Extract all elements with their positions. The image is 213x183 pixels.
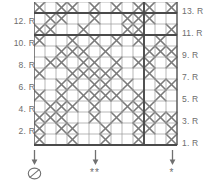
cell-symbol-cable-cross <box>133 134 144 145</box>
cell-symbol-cable-cross <box>56 46 67 57</box>
cell-symbol-cable-cross <box>56 79 67 90</box>
cell-symbol-cable-cross <box>100 123 111 134</box>
cell-symbol-cable-cross <box>89 57 100 68</box>
cell-symbol-cable-cross <box>111 2 122 13</box>
cell-symbol-cable-cross <box>56 13 67 24</box>
pattern-grid-svg <box>34 2 178 148</box>
cell-symbol-cable-cross <box>144 68 155 79</box>
cell-symbol-cable-cross <box>133 2 144 13</box>
cell-symbol-cable-cross <box>166 46 177 57</box>
cell-symbol-cable-cross <box>34 2 45 13</box>
down-arrow-icon <box>80 150 110 166</box>
cell-symbol-cable-cross <box>89 13 100 24</box>
cell-symbol-cable-cross <box>78 57 89 68</box>
cell-symbol-cable-cross <box>89 112 100 123</box>
cell-symbol-cable-cross <box>122 101 133 112</box>
cell-symbol-cable-cross <box>56 112 67 123</box>
cell-symbol-cable-cross <box>111 35 122 46</box>
cell-symbol-cable-cross <box>166 134 177 145</box>
cell-symbol-cable-cross <box>89 68 100 79</box>
row-label-right-9: 9. R <box>182 51 198 60</box>
cell-symbol-cable-cross <box>34 123 45 134</box>
cell-symbol-cable-cross <box>122 13 133 24</box>
cell-symbol-cable-cross <box>67 134 78 145</box>
cell-symbol-cable-cross <box>89 35 100 46</box>
down-arrow-icon <box>19 150 49 166</box>
cell-symbol-cable-cross <box>45 57 56 68</box>
cell-symbol-cable-cross <box>133 24 144 35</box>
cell-symbol-cable-cross <box>89 79 100 90</box>
cell-symbol-cable-cross <box>155 90 166 101</box>
cell-symbol-cable-cross <box>133 90 144 101</box>
cell-symbol-cable-cross <box>133 35 144 46</box>
row-label-right-7: 7. R <box>182 73 198 82</box>
cell-symbol-cable-cross <box>133 123 144 134</box>
cell-symbol-cable-cross <box>100 79 111 90</box>
row-label-left-12: 12. R <box>14 17 35 26</box>
cell-symbol-cable-cross <box>122 24 133 35</box>
row-label-left-10: 10. R <box>14 39 35 48</box>
row-label-left-2: 2. R <box>19 127 35 136</box>
cell-symbol-cable-cross <box>56 123 67 134</box>
cell-symbol-cable-cross <box>100 90 111 101</box>
legend-symbol-single-star: * <box>157 166 187 181</box>
cell-symbol-cable-cross <box>67 2 78 13</box>
cell-symbol-cable-cross <box>111 68 122 79</box>
cell-symbol-cable-cross <box>45 112 56 123</box>
cell-symbol-cable-cross <box>133 13 144 24</box>
row-label-right-1: 1. R <box>182 139 198 148</box>
cell-symbol-cable-cross <box>155 112 166 123</box>
cell-symbol-cable-cross <box>56 2 67 13</box>
cell-symbol-cable-cross <box>34 35 45 46</box>
row-label-left-4: 4. R <box>19 105 35 114</box>
legend-item-double-star: ** <box>80 150 110 181</box>
cell-symbol-cable-cross <box>67 79 78 90</box>
cell-symbol-cable-cross <box>155 46 166 57</box>
row-label-left-6: 6. R <box>19 83 35 92</box>
cell-symbol-cable-cross <box>45 13 56 24</box>
down-arrow-icon <box>157 150 187 166</box>
cell-symbol-cable-cross <box>89 101 100 112</box>
cell-symbol-cable-cross <box>111 90 122 101</box>
cell-symbol-cable-cross <box>100 46 111 57</box>
cell-symbol-cable-cross <box>34 24 45 35</box>
legend-item-single-star: * <box>157 150 187 181</box>
cell-symbol-cable-cross <box>144 13 155 24</box>
cell-symbol-cable-cross <box>111 112 122 123</box>
cell-symbol-cable-cross <box>166 24 177 35</box>
cell-symbol-cable-cross <box>34 134 45 145</box>
cell-symbol-cable-cross <box>34 90 45 101</box>
cell-symbol-cable-cross <box>78 46 89 57</box>
cell-symbol-cable-cross <box>67 101 78 112</box>
symbol-circle-slash-icon <box>19 166 49 181</box>
cell-symbols-layer <box>34 2 177 145</box>
cell-symbol-cable-cross <box>67 46 78 57</box>
cell-symbol-cable-cross <box>166 79 177 90</box>
knitting-chart: 12. R 10. R 8. R 6. R 4. R 2. R 13. R 11… <box>0 0 213 183</box>
cell-symbol-cable-cross <box>122 79 133 90</box>
cell-symbol-cable-cross <box>100 68 111 79</box>
cell-symbol-cable-cross <box>78 90 89 101</box>
cell-symbol-cable-cross <box>56 57 67 68</box>
legend: ** * <box>0 150 213 183</box>
cell-symbol-cable-cross <box>144 101 155 112</box>
cell-symbol-cable-cross <box>133 57 144 68</box>
cell-symbol-cable-cross <box>56 90 67 101</box>
cell-symbol-cable-cross <box>111 57 122 68</box>
cell-symbol-cable-cross <box>133 112 144 123</box>
cell-symbol-cable-cross <box>133 101 144 112</box>
cell-symbol-cable-cross <box>100 134 111 145</box>
cell-symbol-cable-cross <box>166 57 177 68</box>
legend-item-circle-slash <box>19 150 49 181</box>
cell-symbol-cable-cross <box>67 123 78 134</box>
pattern-grid <box>34 2 178 148</box>
cell-symbol-cable-cross <box>155 35 166 46</box>
row-label-right-13: 13. R <box>182 7 203 16</box>
cell-symbol-cable-cross <box>45 101 56 112</box>
row-label-right-5: 5. R <box>182 95 198 104</box>
cell-symbol-cable-cross <box>144 46 155 57</box>
cell-symbol-cable-cross <box>144 112 155 123</box>
cell-symbol-cable-cross <box>78 24 89 35</box>
cell-symbol-cable-cross <box>45 24 56 35</box>
row-label-right-3: 3. R <box>182 117 198 126</box>
